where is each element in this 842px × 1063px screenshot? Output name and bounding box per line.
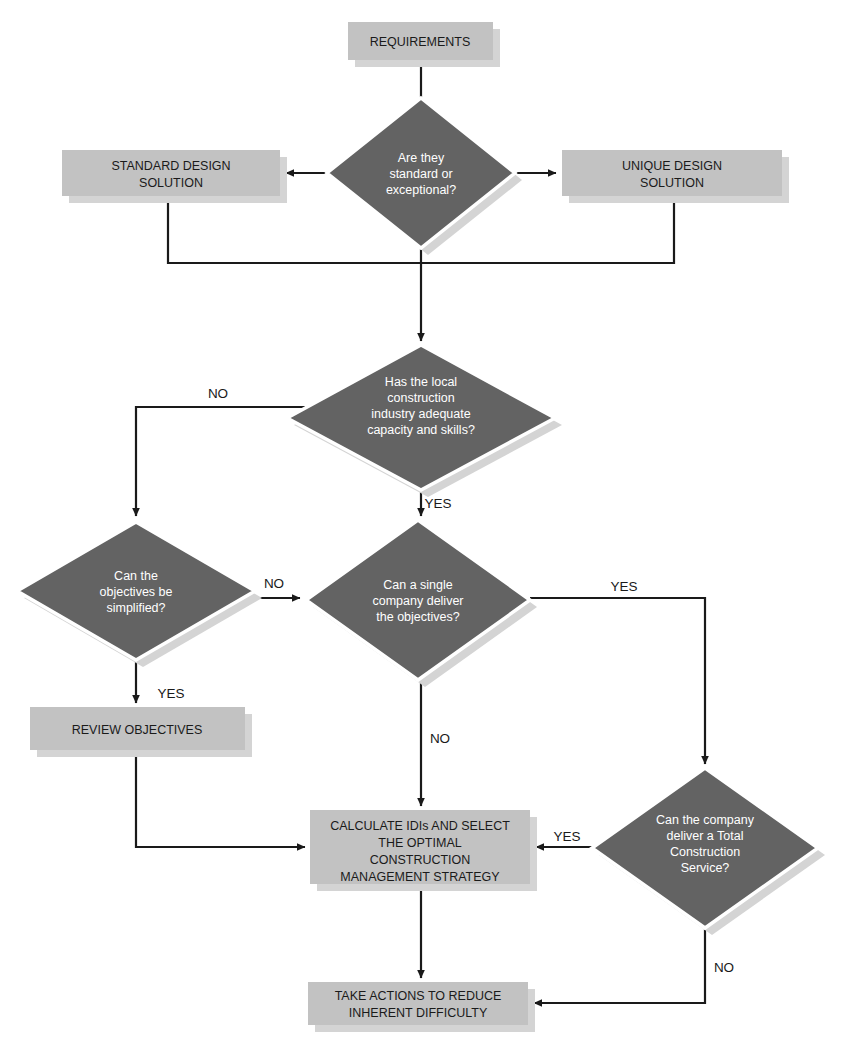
edge-label-total-service-no: NO [714, 960, 734, 975]
node-take-actions[interactable]: TAKE ACTIONS TO REDUCE INHERENT DIFFICUL… [308, 982, 528, 1025]
node-label-line3: exceptional? [386, 183, 456, 197]
node-label-line4: MANAGEMENT STRATEGY [340, 870, 500, 884]
node-label-line1: CALCULATE IDIs AND SELECT [330, 819, 510, 833]
node-label-line1: Can a single [383, 578, 453, 592]
node-label-line1: TAKE ACTIONS TO REDUCE [335, 989, 502, 1003]
node-label-line2: SOLUTION [139, 176, 203, 190]
node-requirements[interactable]: REQUIREMENTS [348, 22, 493, 60]
edge-label-simplify-no: NO [264, 576, 284, 591]
edge-q-total-service-no-to-take-actions [534, 928, 705, 1003]
node-label: REQUIREMENTS [370, 35, 471, 49]
edge-q-capacity-no-to-q-simplify [136, 407, 305, 516]
node-label-line4: capacity and skills? [367, 423, 475, 437]
edge-label-single-company-no: NO [430, 731, 450, 746]
node-q-simplify-objectives[interactable]: Can the objectives be simplified? [17, 522, 255, 660]
node-standard-design-solution[interactable]: STANDARD DESIGN SOLUTION [62, 150, 280, 196]
node-label-line1: Are they [398, 151, 445, 165]
node-label-line2: objectives be [100, 585, 173, 599]
node-label-line4: Service? [681, 861, 730, 875]
flowchart-canvas: Are they standard or exceptional? Has th… [0, 0, 842, 1063]
edge-label-capacity-yes: YES [424, 496, 451, 511]
edge-q-single-company-yes-to-q-total-service [530, 598, 705, 764]
node-label-line2: SOLUTION [640, 176, 704, 190]
node-label-line1: UNIQUE DESIGN [622, 159, 722, 173]
node-label-line2: company deliver [372, 594, 463, 608]
node-label-line3: simplified? [106, 601, 165, 615]
node-label-line3: Construction [670, 845, 740, 859]
node-calculate-idis[interactable]: CALCULATE IDIs AND SELECT THE OPTIMAL CO… [310, 810, 530, 884]
node-label-line3: CONSTRUCTION [370, 853, 471, 867]
node-label-line1: Can the [114, 569, 158, 583]
node-q-single-company[interactable]: Can a single company deliver the objecti… [306, 520, 530, 680]
edge-label-simplify-yes: YES [157, 686, 184, 701]
node-label-line2: INHERENT DIFFICULTY [349, 1006, 488, 1020]
node-label-line2: standard or [389, 167, 452, 181]
node-label-line1: Can the company [656, 813, 755, 827]
node-label-line2: construction [387, 391, 454, 405]
node-label-line3: the objectives? [376, 610, 459, 624]
node-q-total-construction-service[interactable]: Can the company deliver a Total Construc… [592, 768, 818, 928]
node-label-line2: THE OPTIMAL [378, 836, 461, 850]
node-q-standard-exceptional[interactable]: Are they standard or exceptional? [327, 98, 515, 248]
node-unique-design-solution[interactable]: UNIQUE DESIGN SOLUTION [562, 150, 782, 196]
edge-label-capacity-no: NO [208, 386, 228, 401]
node-label-line2: deliver a Total [667, 829, 744, 843]
node-label-line3: industry adequate [371, 407, 470, 421]
node-label: REVIEW OBJECTIVES [72, 723, 203, 737]
edge-review-objectives-to-calculate-idis [136, 750, 305, 847]
edge-label-single-company-yes: YES [610, 579, 637, 594]
node-label-line1: STANDARD DESIGN [111, 159, 230, 173]
node-review-objectives[interactable]: REVIEW OBJECTIVES [30, 707, 245, 750]
node-q-local-capacity[interactable]: Has the local construction industry adeq… [287, 345, 555, 490]
flowchart-svg: Are they standard or exceptional? Has th… [0, 0, 842, 1063]
edge-label-total-service-yes: YES [553, 829, 580, 844]
decision-nodes: Are they standard or exceptional? Has th… [17, 98, 818, 928]
node-label-line1: Has the local [385, 375, 457, 389]
